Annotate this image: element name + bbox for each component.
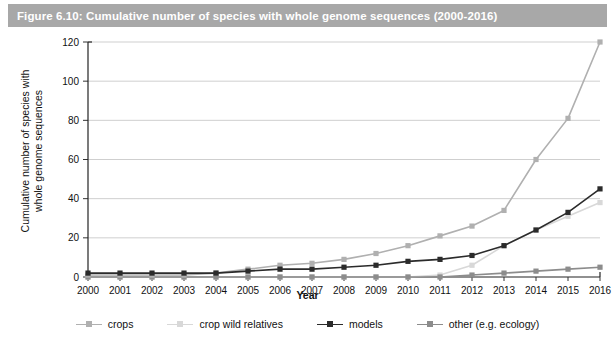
legend-marker-icon: [86, 321, 92, 327]
other-e-g-ecology--marker: [597, 265, 602, 270]
models-marker: [277, 267, 282, 272]
legend-label: models: [349, 318, 383, 330]
models-marker: [309, 267, 314, 272]
legend-swatch-icon: [167, 319, 193, 329]
figure-title-banner: Figure 6.10: Cumulative number of specie…: [8, 4, 607, 27]
other-e-g-ecology--marker: [309, 274, 314, 279]
other-e-g-ecology--marker: [405, 274, 410, 279]
y-tick-label: 120: [62, 37, 79, 48]
other-e-g-ecology--marker: [533, 269, 538, 274]
other-e-g-ecology--marker: [341, 274, 346, 279]
y-tick-label: 0: [73, 272, 79, 283]
models-marker: [469, 253, 474, 258]
other-e-g-ecology--marker: [469, 272, 474, 277]
models-marker: [341, 265, 346, 270]
models-marker: [213, 270, 218, 275]
crops-marker: [341, 257, 346, 262]
legend-item[interactable]: models: [317, 318, 383, 330]
models-marker: [501, 243, 506, 248]
other-e-g-ecology--marker: [565, 267, 570, 272]
crops-marker: [309, 261, 314, 266]
crops-marker: [437, 233, 442, 238]
models-marker: [149, 270, 154, 275]
crop-wild-relatives-marker: [469, 263, 474, 268]
models-marker: [533, 227, 538, 232]
other-e-g-ecology--marker: [245, 274, 250, 279]
crops-marker: [565, 116, 570, 121]
legend-item[interactable]: other (e.g. ecology): [417, 318, 539, 330]
y-tick-label: 100: [62, 76, 79, 87]
chart-legend: cropscrop wild relativesmodelsother (e.g…: [0, 313, 615, 335]
models-marker: [373, 263, 378, 268]
models-marker: [437, 257, 442, 262]
crops-marker: [501, 208, 506, 213]
y-tick-label: 60: [68, 154, 80, 165]
crops-marker: [469, 223, 474, 228]
legend-swatch-icon: [76, 319, 102, 329]
chart-area: Cumulative number of species with whole …: [0, 30, 615, 310]
crops-marker: [533, 157, 538, 162]
legend-marker-icon: [177, 321, 183, 327]
other-e-g-ecology--marker: [437, 274, 442, 279]
line-chart-plot: 0204060801001202000200120022003200420052…: [0, 30, 615, 310]
other-e-g-ecology--marker: [373, 274, 378, 279]
crops-marker: [405, 243, 410, 248]
legend-swatch-icon: [417, 319, 443, 329]
legend-label: other (e.g. ecology): [449, 318, 539, 330]
crops-marker: [597, 39, 602, 44]
crops-marker: [373, 251, 378, 256]
legend-label: crop wild relatives: [199, 318, 282, 330]
y-tick-label: 20: [68, 232, 80, 243]
models-marker: [181, 270, 186, 275]
models-marker: [245, 269, 250, 274]
models-marker: [597, 186, 602, 191]
legend-marker-icon: [327, 321, 333, 327]
models-marker: [85, 270, 90, 275]
models-marker: [565, 210, 570, 215]
y-tick-label: 80: [68, 115, 80, 126]
x-axis-title: Year: [0, 289, 615, 301]
figure-title: Figure 6.10: Cumulative number of specie…: [8, 10, 497, 22]
legend-swatch-icon: [317, 319, 343, 329]
y-tick-label: 40: [68, 193, 80, 204]
crop-wild-relatives-marker: [597, 200, 602, 205]
legend-marker-icon: [427, 321, 433, 327]
other-e-g-ecology--marker: [501, 270, 506, 275]
legend-label: crops: [108, 318, 134, 330]
other-e-g-ecology--marker: [277, 274, 282, 279]
models-marker: [117, 270, 122, 275]
figure-container: Figure 6.10: Cumulative number of specie…: [0, 0, 615, 341]
legend-item[interactable]: crops: [76, 318, 134, 330]
crops-line: [88, 42, 600, 275]
models-marker: [405, 259, 410, 264]
legend-item[interactable]: crop wild relatives: [167, 318, 282, 330]
